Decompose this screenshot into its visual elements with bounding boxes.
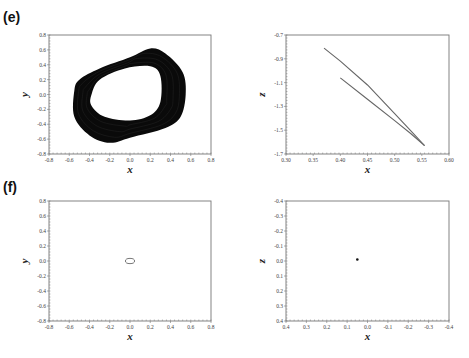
x-tick-label: 0.30 [281, 157, 291, 163]
x-tick-label: 0.4 [167, 157, 174, 163]
y-tick-label: -0.8 [37, 318, 46, 324]
y-tick-label: -0.3 [274, 213, 283, 219]
y-axis-label: z [255, 258, 267, 264]
x-tick-label: -0.6 [65, 324, 74, 330]
plot-frame [286, 35, 449, 154]
y-tick-label: -0.2 [274, 228, 283, 234]
x-tick-label: 0.6 [187, 157, 194, 163]
x-tick-label: 0.1 [344, 324, 351, 330]
x-axis-label: x [126, 330, 133, 342]
trajectory-line [324, 48, 425, 146]
y-tick-label: 0.3 [276, 303, 283, 309]
y-tick-label: 0.8 [39, 32, 46, 38]
x-axis-label: x [364, 163, 371, 175]
x-tick-label: -0.6 [65, 157, 74, 163]
y-tick-label: -0.2 [37, 106, 46, 112]
x-tick-label: 0.55 [417, 157, 427, 163]
y-tick-label: 0.0 [276, 258, 283, 264]
x-tick-label: -0.4 [445, 324, 454, 330]
y-tick-label: 0.4 [39, 62, 46, 68]
y-tick-label: 0.6 [39, 213, 46, 219]
x-tick-label: 0.8 [208, 324, 215, 330]
panel-label-f: (f) [3, 179, 17, 195]
plot-e-xz: 0.300.350.400.450.500.550.60-1.7-1.5-1.3… [255, 32, 454, 175]
limit-cycle [125, 258, 134, 263]
plot-f-xz: 0.40.30.20.10.0-0.1-0.2-0.3-0.4-0.4-0.3-… [255, 198, 454, 342]
y-tick-label: 0.0 [39, 258, 46, 264]
fixed-point [356, 258, 359, 261]
plot-frame [286, 201, 449, 321]
y-axis-label: y [18, 92, 30, 99]
x-tick-label: 0.40 [336, 157, 346, 163]
plot-frame [49, 201, 211, 321]
y-tick-label: -0.2 [37, 273, 46, 279]
x-tick-label: -0.1 [384, 324, 393, 330]
y-tick-label: 0.4 [276, 318, 283, 324]
x-tick-label: 0.35 [308, 157, 318, 163]
x-tick-label: 0.2 [147, 157, 154, 163]
y-tick-label: -0.4 [37, 121, 46, 127]
x-tick-label: 0.2 [147, 324, 154, 330]
y-tick-label: 0.1 [276, 273, 283, 279]
x-tick-label: -0.2 [404, 324, 413, 330]
x-tick-label: -0.2 [105, 324, 114, 330]
y-tick-label: -1.7 [274, 151, 283, 157]
y-tick-label: -0.4 [37, 288, 46, 294]
trajectory-line [340, 78, 424, 146]
x-axis-label: x [126, 163, 133, 175]
x-tick-label: -0.4 [85, 157, 94, 163]
y-axis-label: y [18, 258, 30, 265]
y-tick-label: -0.1 [274, 243, 283, 249]
x-tick-label: -0.8 [45, 157, 54, 163]
x-tick-label: 0.2 [323, 324, 330, 330]
y-tick-label: 0.2 [39, 243, 46, 249]
figure: (e) (f) -0.8-0.6-0.4-0.20.00.20.40.60.8-… [0, 0, 469, 358]
y-tick-label: 0.2 [276, 288, 283, 294]
y-tick-label: -0.8 [37, 151, 46, 157]
x-tick-label: 0.3 [303, 324, 310, 330]
y-tick-label: -1.5 [274, 127, 283, 133]
x-tick-label: 0.60 [444, 157, 454, 163]
y-tick-label: -0.4 [274, 198, 283, 204]
x-tick-label: -0.2 [105, 157, 114, 163]
y-tick-label: -0.7 [274, 32, 283, 38]
y-tick-label: -1.3 [274, 103, 283, 109]
y-tick-label: -1.1 [274, 80, 283, 86]
y-tick-label: 0.2 [39, 77, 46, 83]
x-tick-label: -0.4 [85, 324, 94, 330]
x-tick-label: 0.6 [187, 324, 194, 330]
y-tick-label: 0.8 [39, 198, 46, 204]
x-tick-label: -0.3 [424, 324, 433, 330]
y-tick-label: -0.6 [37, 136, 46, 142]
plot-e-xy: -0.8-0.6-0.4-0.20.00.20.40.60.8-0.8-0.6-… [18, 32, 215, 175]
x-tick-label: 0.4 [167, 324, 174, 330]
plot-f-xy: -0.8-0.6-0.4-0.20.00.20.40.60.8-0.8-0.6-… [18, 198, 215, 342]
x-tick-label: 0.4 [283, 324, 290, 330]
x-axis-label: x [364, 330, 371, 342]
y-tick-label: 0.6 [39, 47, 46, 53]
attractor-band [73, 48, 186, 143]
y-tick-label: 0.0 [39, 92, 46, 98]
x-tick-label: -0.8 [45, 324, 54, 330]
y-axis-label: z [255, 92, 267, 98]
y-tick-label: -0.9 [274, 56, 283, 62]
y-tick-label: -0.6 [37, 303, 46, 309]
y-tick-label: 0.4 [39, 228, 46, 234]
x-tick-label: 0.8 [208, 157, 215, 163]
x-tick-label: 0.50 [390, 157, 400, 163]
panel-label-e: (e) [3, 9, 20, 25]
